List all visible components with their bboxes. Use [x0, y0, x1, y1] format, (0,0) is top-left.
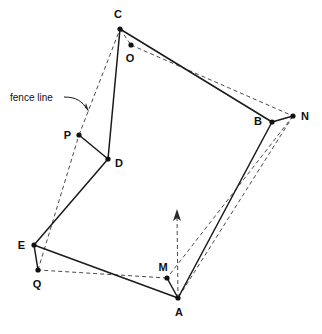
vertex-dot-E	[31, 242, 36, 247]
vertex-dot-M	[164, 275, 169, 280]
fence-line-diagram: ABCDEMNOPQ fence line	[0, 0, 322, 334]
vertex-label-Q: Q	[33, 278, 42, 290]
vertex-dot-O	[128, 42, 133, 47]
vertex-label-A: A	[175, 306, 183, 318]
diagram-canvas: ABCDEMNOPQ fence line	[0, 0, 322, 334]
diagram-background	[0, 0, 322, 334]
vertex-dot-N	[290, 113, 295, 118]
vertex-dot-P	[76, 132, 81, 137]
vertex-label-M: M	[158, 261, 167, 273]
vertex-dot-Q	[35, 267, 40, 272]
vertex-label-N: N	[301, 110, 309, 122]
vertex-dot-B	[269, 119, 274, 124]
vertex-label-P: P	[64, 129, 71, 141]
vertex-label-B: B	[254, 115, 262, 127]
vertex-label-E: E	[18, 239, 25, 251]
vertex-label-C: C	[114, 8, 122, 20]
vertex-label-D: D	[115, 157, 123, 169]
vertex-dot-D	[105, 156, 110, 161]
vertex-dot-A	[175, 295, 180, 300]
fence-line-label: fence line	[10, 92, 53, 103]
vertex-label-O: O	[126, 52, 135, 64]
vertex-dot-C	[117, 26, 122, 31]
